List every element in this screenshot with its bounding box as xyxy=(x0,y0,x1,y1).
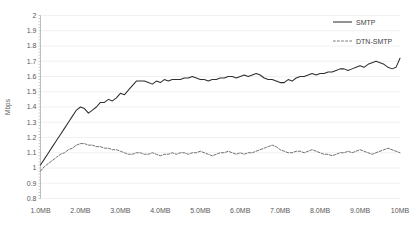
y-tick-label: 1.9 xyxy=(27,27,37,34)
y-tick-label: 2 xyxy=(33,12,37,19)
x-tick-label: 7.0MB xyxy=(270,207,291,214)
y-tick-label: 1.5 xyxy=(27,88,37,95)
y-tick-label: 1.2 xyxy=(27,134,37,141)
y-tick-label: 0.9 xyxy=(27,180,37,187)
y-tick-label: 1.6 xyxy=(27,73,37,80)
x-tick-label: 2.0MB xyxy=(70,207,91,214)
y-tick-label: 1.4 xyxy=(27,103,37,110)
x-tick-label: 9.0MB xyxy=(350,207,371,214)
y-tick-label: 1.3 xyxy=(27,119,37,126)
x-tick-label: 3.0MB xyxy=(110,207,131,214)
y-tick-label: 0.8 xyxy=(27,195,37,202)
line-chart: 0.80.911.11.21.31.41.51.61.71.81.92 1.0M… xyxy=(0,0,415,229)
legend-label-1: SMTP xyxy=(356,19,376,26)
legend-label-2: DTN-SMTP xyxy=(356,38,392,45)
y-tick-label: 1.1 xyxy=(27,149,37,156)
chart-container: 0.80.911.11.21.31.41.51.61.71.81.92 1.0M… xyxy=(0,0,415,229)
chart-background xyxy=(0,0,415,229)
y-tick-label: 1.7 xyxy=(27,58,37,65)
x-tick-label: 1.0MB xyxy=(30,207,51,214)
y-tick-label: 1.8 xyxy=(27,42,37,49)
x-tick-label: 6.0MB xyxy=(230,207,251,214)
x-tick-label: 4.0MB xyxy=(150,207,171,214)
x-tick-label: 10MB xyxy=(391,207,410,214)
x-tick-label: 8.0MB xyxy=(310,207,331,214)
x-tick-label: 5.0MB xyxy=(190,207,211,214)
y-tick-label: 1 xyxy=(33,164,37,171)
y-axis-title: Mbps xyxy=(4,98,12,115)
